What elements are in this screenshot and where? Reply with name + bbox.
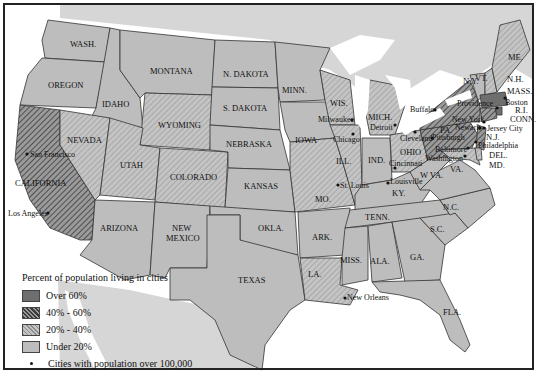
legend-title: Percent of population living in cities: [22, 272, 207, 283]
city-dot-icon: [30, 362, 33, 365]
swatch-40-60: [22, 307, 40, 319]
legend: Percent of population living in cities O…: [22, 272, 207, 373]
legend-item-40-60: 40% - 60%: [22, 305, 207, 320]
legend-item-cities: Cities with population over 100,000: [22, 356, 207, 371]
urban-population-map: WASH. OREGON CALIFORNIA IDAHO NEVADA MON…: [0, 0, 539, 378]
legend-item-over-60: Over 60%: [22, 288, 207, 303]
swatch-over-60: [22, 290, 40, 302]
legend-item-20-40: 20% - 40%: [22, 322, 207, 337]
swatch-20-40: [22, 324, 40, 336]
swatch-under-20: [22, 341, 40, 353]
legend-item-under-20: Under 20%: [22, 339, 207, 354]
